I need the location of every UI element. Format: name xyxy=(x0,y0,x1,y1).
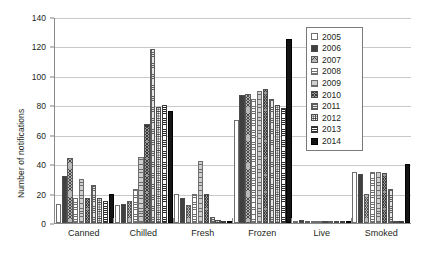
y-tick-label: 0 xyxy=(16,219,46,229)
bar xyxy=(97,198,102,223)
bar xyxy=(364,194,369,223)
legend-label: 2014 xyxy=(322,137,341,146)
bar xyxy=(85,198,90,223)
legend-item[interactable]: 2011 xyxy=(311,101,358,113)
legend-item[interactable]: 2009 xyxy=(311,77,358,89)
bar xyxy=(133,189,138,223)
bar-group xyxy=(174,18,233,223)
bar xyxy=(376,172,381,224)
legend-label: 2012 xyxy=(322,114,341,123)
bar xyxy=(56,204,61,223)
bar xyxy=(316,221,321,223)
bar xyxy=(251,99,256,223)
bar xyxy=(144,124,149,223)
legend-swatch-icon xyxy=(311,68,318,75)
legend-swatch-icon xyxy=(311,80,318,87)
legend-item[interactable]: 2005 xyxy=(311,31,358,43)
bar xyxy=(162,105,167,223)
legend-label: 2006 xyxy=(322,44,341,53)
bar xyxy=(73,198,78,223)
y-tick-label: 60 xyxy=(16,131,46,141)
legend-swatch-icon xyxy=(311,138,318,145)
legend-label: 2008 xyxy=(322,67,341,76)
legend-item[interactable]: 2006 xyxy=(311,43,358,55)
x-tick-label: Fresh xyxy=(173,228,233,238)
bar xyxy=(180,198,185,223)
legend-swatch-icon xyxy=(311,45,318,52)
legend-item[interactable]: 2013 xyxy=(311,124,358,136)
legend: 2005200620072008200920102011201220132014 xyxy=(306,27,363,151)
bar xyxy=(115,205,120,223)
y-tick-label: 100 xyxy=(16,72,46,82)
legend-label: 2013 xyxy=(322,125,341,134)
bar xyxy=(198,161,203,223)
legend-label: 2009 xyxy=(322,79,341,88)
x-tick-label: Chilled xyxy=(114,228,174,238)
x-tick-label: Canned xyxy=(54,228,114,238)
legend-swatch-icon xyxy=(311,126,318,133)
legend-item[interactable]: 2007 xyxy=(311,54,358,66)
bar-group xyxy=(55,18,114,223)
bar xyxy=(328,221,333,223)
legend-swatch-icon xyxy=(311,103,318,110)
bar xyxy=(204,194,209,223)
bar-group xyxy=(114,18,173,223)
legend-swatch-icon xyxy=(311,56,318,63)
legend-swatch-icon xyxy=(311,114,318,121)
bar xyxy=(103,201,108,223)
bar xyxy=(358,174,363,223)
bar xyxy=(150,49,155,223)
legend-item[interactable]: 2008 xyxy=(311,66,358,78)
bar xyxy=(393,221,398,223)
bar xyxy=(370,172,375,224)
bar xyxy=(269,99,274,223)
bar xyxy=(340,221,345,223)
bar xyxy=(239,95,244,223)
chart-figure: Number of notifications 0204060801001201… xyxy=(0,0,432,267)
bar xyxy=(62,176,67,223)
bar xyxy=(210,217,215,223)
bar xyxy=(156,107,161,223)
bar xyxy=(121,204,126,223)
bar xyxy=(127,201,132,223)
y-tick-label: 140 xyxy=(16,13,46,23)
bar xyxy=(405,164,410,223)
legend-label: 2007 xyxy=(322,56,341,65)
x-tick-label: Live xyxy=(292,228,352,238)
legend-swatch-icon xyxy=(311,33,318,40)
legend-label: 2005 xyxy=(322,33,341,42)
y-tick-label: 120 xyxy=(16,42,46,52)
bar xyxy=(281,108,286,223)
bar xyxy=(186,205,191,223)
y-tick-label: 40 xyxy=(16,160,46,170)
bar xyxy=(399,221,404,223)
bar xyxy=(91,185,96,223)
bar xyxy=(293,221,298,223)
bar xyxy=(352,172,357,224)
bar xyxy=(67,158,72,223)
bar xyxy=(311,221,316,223)
bar xyxy=(263,89,268,223)
y-tick-label: 20 xyxy=(16,190,46,200)
legend-label: 2011 xyxy=(322,102,340,111)
x-tick-label: Smoked xyxy=(352,228,412,238)
bar xyxy=(174,194,179,223)
bar xyxy=(322,221,327,223)
bar xyxy=(215,220,220,223)
legend-item[interactable]: 2014 xyxy=(311,135,358,147)
legend-item[interactable]: 2010 xyxy=(311,89,358,101)
bar xyxy=(221,221,226,223)
bar xyxy=(286,39,291,223)
y-tick-label: 80 xyxy=(16,101,46,111)
bar xyxy=(305,221,310,223)
bar xyxy=(334,221,339,223)
bar xyxy=(138,157,143,223)
bar xyxy=(388,189,393,223)
legend-swatch-icon xyxy=(311,91,318,98)
bar xyxy=(168,111,173,223)
bar xyxy=(257,91,262,223)
bar xyxy=(382,173,387,223)
x-tick-label: Frozen xyxy=(233,228,293,238)
legend-item[interactable]: 2012 xyxy=(311,112,358,124)
bar-group xyxy=(233,18,292,223)
